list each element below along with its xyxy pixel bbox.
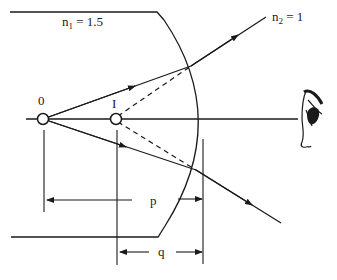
curved-surface [164,20,198,226]
image-point [111,114,122,125]
image-label: I [112,96,116,111]
virtual-ray-extensions [118,66,196,170]
glass-rod [10,12,198,237]
q-label: q [158,244,165,259]
ray-lower-refracted-arrow [196,170,252,205]
virtual-extension-lower [118,122,196,170]
ray-upper-refracted-arrow [191,35,238,66]
eye-icon [301,91,322,147]
medium2-label: n2 = 1 [272,9,303,26]
object-point [38,114,49,125]
object-label: 0 [38,93,45,108]
virtual-extension-upper [118,66,191,116]
refraction-diagram: 0 I n1 = 1.5 n2 = 1 p q [0,0,337,280]
p-label: p [150,193,157,208]
rod-bottom-edge [11,226,165,237]
rays [43,17,281,223]
medium1-label: n1 = 1.5 [62,14,103,31]
